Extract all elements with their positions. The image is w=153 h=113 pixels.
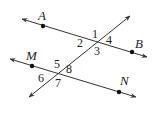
angle-label-5: 5: [54, 57, 60, 71]
point-label-m: M: [25, 48, 38, 63]
angle-label-1: 1: [92, 27, 98, 41]
parallel-lines-diagram: ABMN 12345678: [0, 0, 153, 113]
angle-label-7: 7: [55, 76, 61, 90]
diagram-svg: ABMN 12345678: [0, 0, 153, 113]
point-label-b: B: [135, 36, 143, 51]
angle-label-2: 2: [77, 36, 83, 50]
line-transversal: [29, 16, 130, 97]
point-m-dot: [30, 64, 34, 68]
angle-label-8: 8: [66, 62, 72, 76]
point-label-n: N: [119, 73, 130, 88]
line-ab: [22, 19, 147, 57]
point-n-dot: [117, 90, 121, 94]
angle-label-6: 6: [38, 71, 44, 85]
angle-label-3: 3: [94, 44, 100, 58]
angle-label-4: 4: [106, 33, 112, 47]
point-label-a: A: [37, 8, 46, 23]
point-a-dot: [41, 24, 45, 28]
point-b-dot: [130, 50, 134, 54]
